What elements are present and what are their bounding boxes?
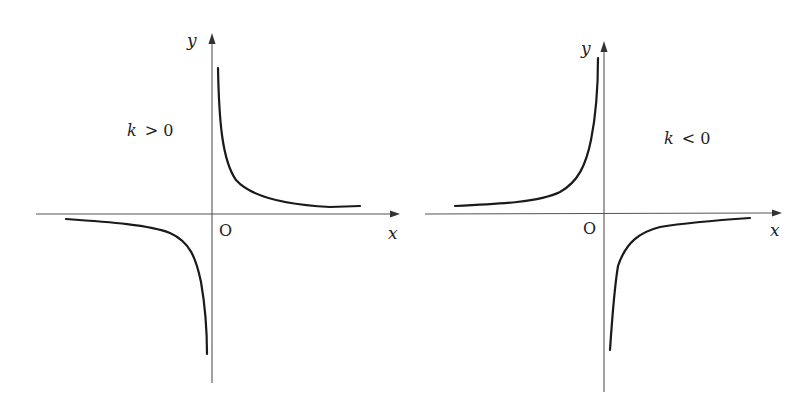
panel-k-positive: y k > 0 O x	[36, 30, 400, 383]
x-axis-arrow-icon	[390, 211, 400, 218]
hyperbola-figure: y k > 0 O x y k < 0 O x	[0, 0, 812, 419]
curve-branch-quadrant-2	[455, 58, 598, 206]
condition-rest: > 0	[140, 121, 174, 140]
panel-k-negative: y k < 0 O x	[425, 38, 782, 392]
condition-rest: < 0	[677, 129, 711, 148]
x-axis-label: x	[388, 223, 398, 243]
k-variable: k	[127, 121, 137, 140]
condition-label: k > 0	[127, 121, 173, 140]
y-axis-arrow-icon	[209, 33, 216, 44]
x-axis	[425, 213, 778, 214]
y-axis-label: y	[186, 30, 197, 50]
curve-branch-quadrant-4	[610, 218, 750, 350]
origin-label: O	[219, 221, 232, 240]
x-axis-arrow-icon	[772, 210, 782, 217]
y-axis-arrow-icon	[601, 41, 608, 52]
k-variable: k	[664, 129, 674, 148]
curve-branch-quadrant-1	[218, 68, 360, 207]
y-axis-label: y	[580, 38, 591, 58]
curve-branch-quadrant-3	[66, 219, 207, 354]
condition-label: k < 0	[664, 129, 710, 148]
origin-label: O	[583, 219, 596, 238]
x-axis-label: x	[770, 220, 780, 240]
